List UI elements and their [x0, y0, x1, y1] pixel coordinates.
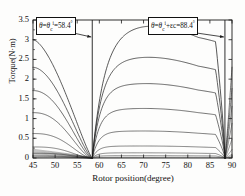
torque-curve [92, 57, 225, 158]
torque-curve [92, 26, 225, 158]
ann-right-sub-c: c [162, 26, 164, 32]
x-tick-label: 50 [44, 160, 66, 170]
torque-curve [92, 146, 225, 158]
torque-curve [33, 67, 92, 158]
torque-curve [225, 67, 232, 158]
y-tick-label: 3.5 [5, 14, 29, 24]
x-tick-label: 65 [110, 160, 132, 170]
y-tick-label: 2 [5, 73, 29, 83]
leader-arrow-turn-off-head [220, 35, 224, 38]
y-tick-label: 0.5 [5, 132, 29, 142]
plot-area [33, 20, 232, 158]
ann-right-value: 88.4 [180, 22, 193, 30]
ann-right-plus-eps: +εc [166, 22, 176, 30]
ann-left-value: 58.4 [58, 22, 71, 30]
ann-left-degree: ° [71, 20, 73, 26]
y-tick-label: 3 [5, 34, 29, 44]
ann-left-sub-c: c [50, 26, 52, 32]
torque-curve [33, 113, 92, 158]
x-tick-label: 55 [66, 160, 88, 170]
y-tick-label: 0 [5, 152, 29, 162]
x-tick-label: 60 [88, 160, 110, 170]
annotation-turn-off-angle: θ=θci+εc=88.4° [148, 17, 198, 35]
torque-curve [92, 108, 225, 158]
y-tick-label: 2.5 [5, 53, 29, 63]
chart-figure: Torque(N·m) Rotor position(degree) 45505… [0, 0, 245, 196]
torque-curve [92, 131, 225, 158]
torque-curve [33, 40, 92, 158]
annotation-turn-on-angle: θ=θci=58.4° [36, 17, 76, 35]
x-tick-label: 75 [155, 160, 177, 170]
x-tick-label: 90 [221, 160, 243, 170]
ann-right-degree: ° [193, 20, 195, 26]
y-tick-label: 1 [5, 113, 29, 123]
x-tick-label: 85 [199, 160, 221, 170]
x-axis-title: Rotor position(degree) [33, 173, 233, 183]
x-tick-label: 80 [177, 160, 199, 170]
y-tick-label: 1.5 [5, 93, 29, 103]
x-tick-label: 70 [133, 160, 155, 170]
plot-frame [33, 20, 232, 158]
torque-curve [92, 84, 225, 158]
